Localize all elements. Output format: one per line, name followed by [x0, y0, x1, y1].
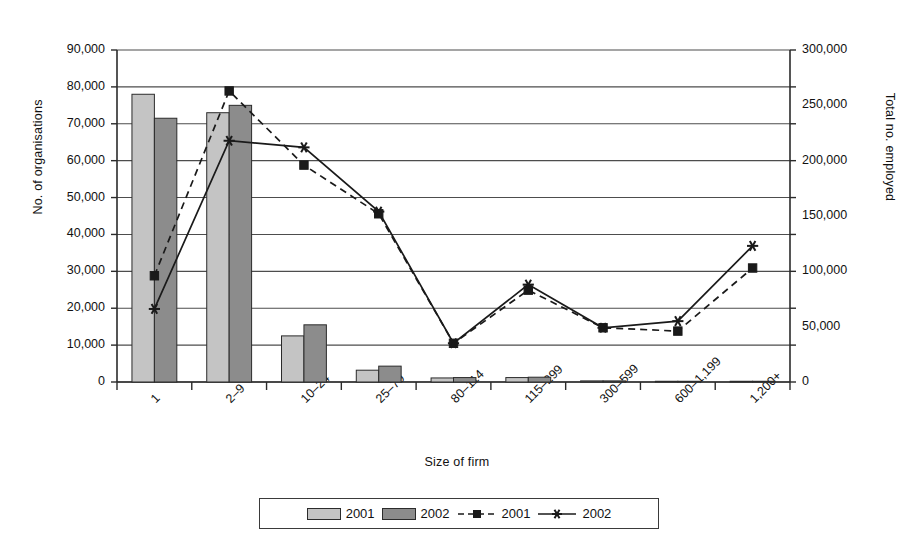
- marker-square-2001-1,200+: [748, 264, 756, 272]
- chart-legend: 2001200220012002: [259, 498, 659, 529]
- bar-2001-600–1,199: [655, 381, 677, 382]
- legend-label: 2002: [421, 506, 450, 521]
- legend-line-dashed-square-icon: [457, 508, 497, 520]
- legend-item: 2002: [537, 506, 611, 521]
- bar-2002-10–24: [304, 325, 326, 382]
- bar-2001-10–24: [282, 336, 304, 382]
- bar-2001-25–79: [356, 370, 378, 382]
- marker-square-2001-600–1,199: [674, 327, 682, 335]
- marker-square-2001-1: [150, 272, 158, 280]
- legend-label: 2001: [346, 506, 375, 521]
- legend-item: 2001: [457, 506, 531, 521]
- bar-2002-300–599: [603, 381, 625, 382]
- bar-2002-25–79: [379, 366, 401, 382]
- legend-swatch-bar-2001: [307, 508, 341, 520]
- bar-2002-1,200+: [753, 381, 775, 382]
- bar-2001-115–299: [506, 378, 528, 382]
- marker-square-2001-2–9: [225, 87, 233, 95]
- bar-2001-1: [132, 94, 154, 382]
- bar-2002-115–299: [528, 377, 550, 382]
- marker-square-2001-10–24: [300, 161, 308, 169]
- chart-container: No. of organisations Total no. employed …: [0, 0, 914, 559]
- bar-2001-80–114: [431, 378, 453, 382]
- legend-swatch-bar-2002: [382, 508, 416, 520]
- bar-2001-1,200+: [730, 381, 752, 382]
- plot-area: [0, 0, 914, 559]
- legend-line-solid-asterisk-icon: [537, 508, 577, 520]
- legend-item: 2001: [307, 506, 375, 521]
- bar-2002-2–9: [229, 105, 251, 382]
- bar-2002-80–114: [454, 378, 476, 382]
- bar-2001-300–599: [581, 381, 603, 382]
- legend-label: 2002: [582, 506, 611, 521]
- bar-2001-2–9: [207, 113, 229, 382]
- bar-2002-600–1,199: [678, 381, 700, 382]
- legend-label: 2001: [502, 506, 531, 521]
- legend-item: 2002: [382, 506, 450, 521]
